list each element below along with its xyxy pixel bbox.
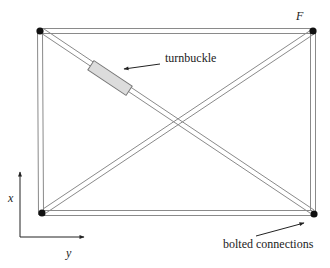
right-post-member [311,31,316,215]
x-axis-label: x [7,191,14,205]
y-axis-label: y [65,246,72,260]
node-top-left-icon [36,27,43,34]
node-bottom-right-icon [310,210,317,217]
force-label: F [295,9,304,23]
bolted-connections-label: bolted connections [223,237,314,251]
left-post-member [38,31,44,215]
bottom-chord-member [41,211,315,216]
turnbuckle-label: turnbuckle [165,51,216,65]
truss-frame-diagram: turnbuckle F bolted connections x y [0,0,330,268]
bolted-connections-arrow-icon [256,223,304,236]
node-bottom-left-icon [38,209,45,216]
turnbuckle-icon [88,61,132,96]
node-top-right-icon [309,27,316,34]
turnbuckle-arrow-icon [124,64,160,69]
top-chord-member [39,29,313,34]
